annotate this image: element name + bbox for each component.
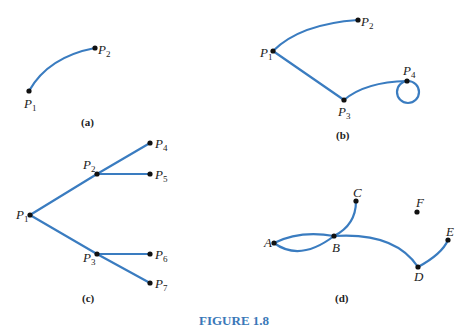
panel-label-a: (a) (81, 116, 94, 129)
edge-p4-loop (397, 81, 419, 103)
node-p2 (92, 45, 97, 50)
edge-p1-p2 (273, 20, 358, 51)
label-f: F (415, 195, 425, 210)
label-p3: P3 (337, 104, 351, 121)
label-a: A (263, 235, 272, 250)
edge-p1-p2 (30, 174, 97, 215)
panel-c: P1 P2 P3 P4 P5 P6 P7 (c) (15, 136, 168, 305)
label-p2: P2 (82, 157, 95, 174)
figure-1-8: P1 P2 (a) P1 P2 P3 P4 (b) P1 P2 P3 (0, 0, 467, 336)
edge-b-c (334, 201, 356, 236)
panel-a: P1 P2 (a) (23, 42, 110, 129)
node-p4 (404, 78, 409, 83)
label-p7: P7 (154, 276, 168, 293)
node-p6 (147, 251, 152, 256)
label-p6: P6 (154, 247, 168, 264)
label-p4: P4 (402, 63, 416, 80)
label-p1: P1 (259, 45, 272, 62)
panel-label-c: (c) (82, 292, 95, 305)
panel-label-b: (b) (336, 129, 350, 142)
edge-p1-p2 (29, 48, 95, 91)
node-p4 (147, 140, 152, 145)
label-p1: P1 (15, 207, 28, 224)
node-b (331, 233, 336, 238)
node-p1 (26, 88, 31, 93)
label-p5: P5 (154, 167, 168, 184)
label-p1: P1 (23, 96, 36, 113)
label-d: D (413, 269, 424, 284)
node-a (271, 240, 276, 245)
edge-d-e (418, 240, 448, 267)
node-p2 (355, 17, 360, 22)
edge-p2-p4 (97, 143, 150, 174)
label-c: C (353, 185, 362, 200)
node-p7 (147, 280, 152, 285)
label-p2: P2 (97, 42, 110, 59)
panel-label-d: (d) (335, 292, 349, 305)
node-p3 (94, 251, 99, 256)
label-p2: P2 (360, 14, 373, 31)
node-p5 (147, 171, 152, 176)
panel-d: A B C D E F (d) (263, 185, 454, 305)
label-e: E (445, 224, 454, 239)
panel-b: P1 P2 P3 P4 (b) (259, 14, 419, 142)
figure-canvas: P1 P2 (a) P1 P2 P3 P4 (b) P1 P2 P3 (0, 0, 467, 336)
label-b: B (332, 240, 340, 255)
edge-b-d (334, 236, 418, 267)
edge-p1-p3 (273, 51, 344, 100)
label-p4: P4 (154, 136, 168, 153)
edge-p3-p7 (97, 254, 150, 283)
figure-caption: FIGURE 1.8 (199, 313, 270, 328)
edge-p1-p3 (30, 215, 97, 254)
node-p3 (341, 97, 346, 102)
node-f (414, 209, 419, 214)
